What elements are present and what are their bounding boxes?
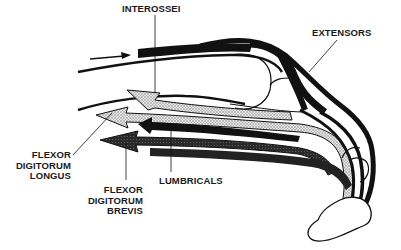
label-extensors: EXTENSORS — [312, 28, 372, 39]
metatarsal-head — [230, 54, 271, 109]
fdb-line-1: FLEXOR — [78, 185, 143, 196]
fdl-leader — [73, 113, 112, 155]
fdl-line-1: FLEXOR — [6, 150, 71, 161]
extensors-leader — [309, 40, 337, 72]
label-lumbricals: LUMBRICALS — [159, 176, 223, 187]
direction-arrow — [90, 52, 131, 59]
fdl-line-3: LONGUS — [6, 171, 71, 182]
label-flexor-digitorum-longus: FLEXOR DIGITORUM LONGUS — [6, 150, 71, 182]
distal-phalanx — [308, 197, 371, 241]
fdb-line-3: BREVIS — [78, 206, 143, 217]
label-flexor-digitorum-brevis: FLEXOR DIGITORUM BREVIS — [78, 185, 143, 217]
label-interossei: INTEROSSEI — [122, 4, 181, 15]
